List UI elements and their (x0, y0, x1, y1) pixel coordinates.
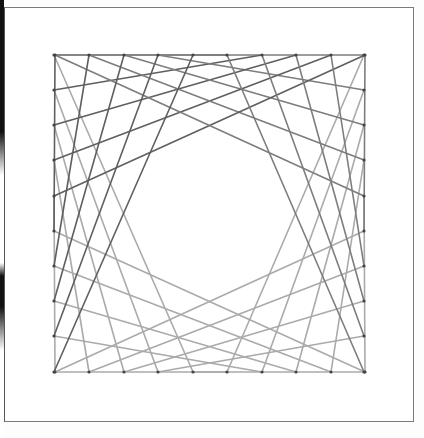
nail-icon (122, 53, 125, 56)
nail-icon (329, 370, 332, 373)
nail-icon (52, 88, 55, 91)
nail-icon (156, 53, 159, 56)
nail-icon (52, 53, 55, 56)
thread-bottom-right (89, 266, 364, 372)
nail-icon (87, 53, 90, 56)
nail-icon (52, 334, 55, 337)
nail-icon (362, 370, 365, 373)
nail-icon (87, 370, 90, 373)
thread-bottom-left (54, 125, 124, 372)
nail-icon (122, 370, 125, 373)
nail-icon (260, 370, 263, 373)
nail-icon (191, 370, 194, 373)
nail-icon (52, 370, 55, 373)
nail-icon (225, 370, 228, 373)
nail-icon (225, 53, 228, 56)
thread-bottom-left (54, 336, 262, 372)
string-art-canvas (0, 0, 424, 438)
thread-top-left (54, 55, 124, 301)
nail-icon (52, 123, 55, 126)
thread-top-right (364, 55, 365, 231)
nail-icon (362, 123, 365, 126)
nail-icon (362, 229, 365, 232)
thread-top-left (54, 55, 262, 90)
nail-icon (52, 158, 55, 161)
thread-top-right (262, 55, 364, 336)
thread-top-left (54, 55, 158, 336)
nail-icon (52, 194, 55, 197)
nail-icon (362, 334, 365, 337)
thread-bottom-left (54, 90, 158, 372)
nail-icon (294, 53, 297, 56)
thread-top-right (89, 55, 364, 160)
nail-icon (362, 194, 365, 197)
thread-bottom-left (54, 160, 89, 372)
nail-icon (329, 53, 332, 56)
nail-icon (191, 53, 194, 56)
thread-top-left (54, 55, 55, 231)
thread-top-left (54, 55, 331, 160)
nail-icon (260, 53, 263, 56)
thread-bottom-right (331, 160, 364, 372)
nail-icon (52, 264, 55, 267)
thread-bottom-right (262, 90, 364, 372)
nail-icon (294, 370, 297, 373)
nail-icon (362, 53, 365, 56)
nail-icon (362, 264, 365, 267)
nail-icon (362, 158, 365, 161)
nail-icon (52, 229, 55, 232)
nail-icon (362, 299, 365, 302)
nail-icon (52, 299, 55, 302)
thread-bottom-left (54, 266, 331, 372)
nail-icon (156, 370, 159, 373)
nail-icon (362, 88, 365, 91)
